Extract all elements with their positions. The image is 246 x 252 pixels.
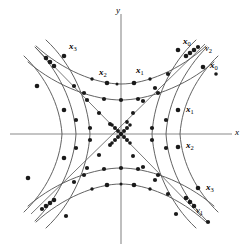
point-asym-v2 (97, 153, 101, 157)
point-outer (174, 212, 178, 216)
point-top-inner (136, 97, 140, 101)
point-cluster-ll (52, 198, 57, 203)
point-top-extra (116, 83, 119, 86)
point-x1-top (132, 81, 137, 86)
point-asym-v1 (72, 84, 76, 88)
eigenvector-v1-label: v1 (196, 206, 203, 215)
point-bottom-inner (136, 167, 140, 171)
point-asym-v1 (166, 192, 170, 196)
point-origin-cluster (122, 129, 126, 133)
point-cluster-ll (44, 204, 49, 209)
point-x2-right (176, 145, 181, 150)
point-asym-v2 (141, 99, 145, 103)
label-x0-right: x0 (210, 61, 218, 70)
point-origin-cluster (125, 138, 129, 142)
point-bottom (148, 187, 151, 190)
point-top-extra (90, 77, 93, 80)
point-right (150, 126, 154, 130)
point-left (88, 138, 92, 142)
point-asym-v1 (153, 178, 157, 182)
point-asym-v1 (85, 98, 89, 102)
point-bottom-inner (119, 166, 123, 170)
point-asym-v2 (131, 111, 135, 115)
point-cluster-ur (192, 48, 197, 53)
point-left (62, 108, 67, 113)
point-top-inner (156, 91, 160, 95)
point-cluster-ul (44, 56, 49, 61)
point-right (164, 146, 168, 150)
label-x3-upper-left: x3 (69, 42, 77, 51)
point-left (26, 176, 31, 181)
point-origin-cluster (113, 126, 117, 130)
point-bottom (120, 183, 123, 186)
point-asym-v1 (141, 165, 145, 169)
figure-canvas: y x v2 v1 x0 x0 x1 x2 x3 x3 x2 x1 (0, 0, 246, 252)
point-outer (64, 214, 68, 218)
label-x1-right: x1 (186, 105, 194, 114)
point-asym-v1 (131, 154, 135, 158)
point-cluster-ur (196, 45, 200, 49)
point-asym-v1 (97, 111, 101, 115)
point-asym-v2 (166, 72, 170, 76)
point-outer (214, 72, 218, 76)
point-x3-upper-left (62, 54, 67, 59)
point-top-inner (82, 91, 86, 95)
point-left (74, 118, 78, 122)
point-x3-lower-right (196, 186, 201, 191)
point-x2-top (105, 81, 110, 86)
point-cluster-ul (52, 64, 57, 69)
phase-portrait-svg (0, 0, 246, 252)
point-cluster-lr (184, 196, 189, 201)
point-asym-v2 (72, 180, 76, 184)
point-origin-cluster (128, 141, 132, 145)
label-x1-top: x1 (136, 66, 144, 75)
point-bottom-inner (102, 167, 106, 171)
point-outer (206, 220, 210, 224)
point-cluster-ur (188, 51, 193, 56)
point-x1-right (176, 108, 181, 113)
point-x0-right (201, 65, 206, 70)
point-top-extra (148, 77, 151, 80)
point-top-inner (119, 98, 123, 102)
point-origin-cluster (128, 123, 132, 127)
point-origin-cluster (113, 138, 117, 142)
point-bottom (132, 183, 137, 188)
label-x2-right: x2 (186, 141, 194, 150)
point-origin-cluster (116, 135, 120, 139)
label-x3-lower-right: x3 (206, 183, 214, 192)
point-cluster-ur (184, 54, 189, 59)
point-cluster-lr (188, 200, 193, 205)
point-x0-upper-right (176, 48, 181, 53)
x-axis-label: x (235, 128, 239, 137)
point-left (62, 156, 67, 161)
point-bottom (90, 187, 93, 190)
point-cluster-ll (40, 207, 44, 211)
point-right (150, 138, 154, 142)
point-asym-v2 (125, 120, 129, 124)
point-origin-cluster (110, 123, 114, 127)
point-asym-v2 (85, 166, 89, 170)
label-x0-upper-right: x0 (183, 37, 191, 46)
point-left (35, 84, 40, 89)
point-cluster-ul (48, 60, 53, 65)
point-left (74, 146, 78, 150)
point-origin-cluster (110, 141, 114, 145)
point-origin-cluster (116, 129, 120, 133)
point-bottom (105, 183, 110, 188)
point-origin-cluster (119, 132, 123, 136)
point-bottom-inner (82, 173, 86, 177)
point-asym-v2 (153, 86, 157, 90)
point-origin-cluster (122, 135, 126, 139)
point-bottom-inner (156, 173, 160, 177)
point-origin-cluster (125, 126, 129, 130)
point-left (88, 126, 92, 130)
point-right (164, 118, 168, 122)
eigenvector-v2-label: v2 (205, 44, 212, 53)
point-top-inner (102, 97, 106, 101)
label-x2-top: x2 (99, 68, 107, 77)
point-cluster-ll (48, 201, 53, 206)
y-axis-label: y (116, 6, 120, 15)
